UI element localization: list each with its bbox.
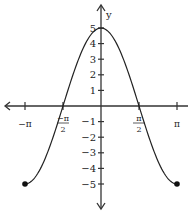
x-tick-label-denominator: 2 [60, 125, 65, 134]
y-tick-label: −2 [81, 132, 96, 143]
x-tick-label-numerator: π [136, 114, 141, 123]
y-axis-label: y [105, 9, 112, 20]
x-tick-label: −π [18, 119, 32, 129]
x-tick-label: π [174, 119, 180, 129]
endpoint-dot [174, 181, 180, 187]
y-tick-label: −1 [81, 116, 96, 127]
endpoint-dot [22, 181, 28, 187]
y-tick-label: −5 [81, 179, 96, 190]
x-tick-label-denominator: 2 [136, 125, 141, 134]
x-ticks: −π−π2π2π [18, 102, 180, 134]
y-tick-label: 1 [90, 85, 96, 96]
y-tick-label: 2 [90, 69, 96, 80]
y-tick-label: 3 [90, 54, 96, 65]
cosine-graph: y 54321−1−2−3−4−5 −π−π2π2π [0, 0, 193, 215]
y-tick-label: −4 [81, 163, 96, 174]
y-tick-label: −3 [81, 147, 96, 158]
y-tick-label: 4 [90, 38, 96, 49]
